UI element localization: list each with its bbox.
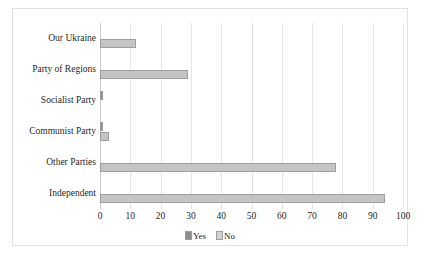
legend-label: No bbox=[224, 231, 235, 241]
bar-group bbox=[100, 54, 403, 85]
legend-item-no[interactable]: No bbox=[216, 231, 235, 241]
category-label: Our Ukraine bbox=[48, 34, 96, 44]
x-tick-label: 60 bbox=[277, 211, 287, 221]
chart-legend: YesNo bbox=[13, 231, 407, 241]
category-label: Communist Party bbox=[29, 127, 96, 137]
x-tick-label: 30 bbox=[186, 211, 196, 221]
x-tick-label: 40 bbox=[216, 211, 226, 221]
legend-swatch-icon bbox=[185, 231, 192, 240]
bar-yes bbox=[100, 91, 103, 100]
bar-group bbox=[100, 147, 403, 178]
x-tick-label: 20 bbox=[156, 211, 166, 221]
legend-item-yes[interactable]: Yes bbox=[185, 231, 206, 241]
category-label: Independent bbox=[49, 189, 96, 199]
bar-no bbox=[100, 39, 136, 48]
legend-label: Yes bbox=[193, 231, 206, 241]
bar-no bbox=[100, 132, 109, 141]
x-tick-label: 80 bbox=[338, 211, 348, 221]
bar-group bbox=[100, 23, 403, 54]
category-label: Other Parties bbox=[46, 158, 96, 168]
bar-no bbox=[100, 163, 336, 172]
bar-group bbox=[100, 116, 403, 147]
gridline-100 bbox=[403, 23, 404, 209]
bar-group bbox=[100, 178, 403, 209]
x-axis-tick-labels: 0102030405060708090100 bbox=[100, 211, 403, 225]
category-label: Party of Regions bbox=[32, 65, 96, 75]
plot-area bbox=[100, 23, 403, 209]
bar-yes bbox=[100, 122, 103, 131]
category-label: Socialist Party bbox=[41, 96, 96, 106]
x-tick-label: 100 bbox=[396, 211, 410, 221]
legend-swatch-icon bbox=[216, 231, 223, 240]
chart-container: Our UkraineParty of RegionsSocialist Par… bbox=[12, 8, 408, 246]
x-tick-label: 50 bbox=[247, 211, 257, 221]
bar-no bbox=[100, 194, 385, 203]
bar-no bbox=[100, 70, 188, 79]
bar-group bbox=[100, 85, 403, 116]
x-tick-label: 10 bbox=[126, 211, 136, 221]
x-tick-label: 0 bbox=[98, 211, 103, 221]
category-axis-labels: Our UkraineParty of RegionsSocialist Par… bbox=[13, 23, 96, 209]
x-tick-label: 90 bbox=[368, 211, 378, 221]
x-tick-label: 70 bbox=[307, 211, 317, 221]
